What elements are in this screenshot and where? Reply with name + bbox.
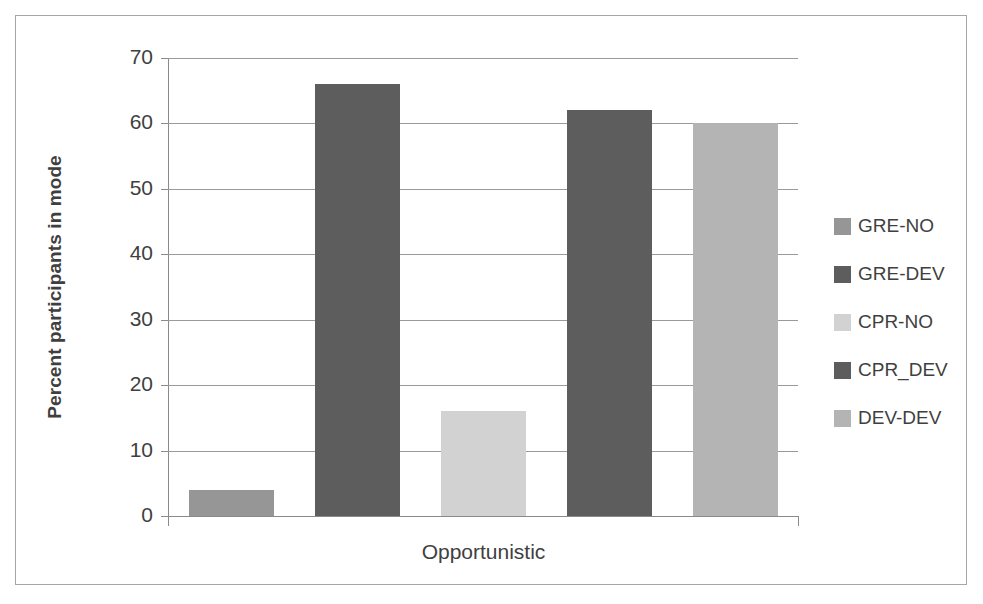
legend-item-cpr-no[interactable]: CPR-NO [834, 298, 974, 346]
y-tick-label-10: 10 [93, 438, 153, 462]
legend-item-dev-dev[interactable]: DEV-DEV [834, 394, 974, 442]
bar-dev-dev[interactable] [693, 123, 778, 516]
y-tick-label-30: 30 [93, 307, 153, 331]
legend-item-gre-no[interactable]: GRE-NO [834, 202, 974, 250]
plot-area [168, 58, 798, 516]
y-axis-title: Percent participants in mode [42, 58, 68, 516]
legend-swatch-icon [834, 266, 851, 283]
legend-swatch-icon [834, 410, 851, 427]
legend-label-dev-dev: DEV-DEV [858, 407, 941, 429]
chart-frame: Percent participants in mode 70 60 50 40… [15, 15, 967, 585]
y-tick-label-60: 60 [93, 110, 153, 134]
x-tick-mark-right [798, 517, 799, 526]
legend-swatch-icon [834, 218, 851, 235]
legend-swatch-icon [834, 314, 851, 331]
y-tick-label-50: 50 [93, 176, 153, 200]
legend-item-gre-dev[interactable]: GRE-DEV [834, 250, 974, 298]
chart-figure: Percent participants in mode 70 60 50 40… [0, 0, 983, 604]
bar-cpr-dev[interactable] [567, 110, 652, 516]
y-tick-label-70: 70 [93, 45, 153, 69]
chart-legend: GRE-NO GRE-DEV CPR-NO CPR_DEV DEV-DEV [834, 202, 974, 442]
legend-item-cpr-dev[interactable]: CPR_DEV [834, 346, 974, 394]
x-tick-mark-left [168, 517, 169, 526]
y-tick-label-40: 40 [93, 241, 153, 265]
bar-cpr-no[interactable] [441, 411, 526, 516]
bar-group-opportunistic [168, 58, 798, 516]
bar-gre-dev[interactable] [315, 84, 400, 516]
x-axis-spine [168, 516, 799, 517]
x-axis-label: Opportunistic [168, 540, 799, 564]
y-tick-label-0: 0 [93, 503, 153, 527]
y-axis-tick-labels: 70 60 50 40 30 20 10 0 [91, 58, 153, 516]
legend-label-cpr-no: CPR-NO [858, 311, 933, 333]
legend-label-gre-no: GRE-NO [858, 215, 934, 237]
bar-gre-no[interactable] [189, 490, 274, 516]
legend-label-cpr-dev: CPR_DEV [858, 359, 948, 381]
y-tick-label-20: 20 [93, 372, 153, 396]
legend-label-gre-dev: GRE-DEV [858, 263, 945, 285]
legend-swatch-icon [834, 362, 851, 379]
